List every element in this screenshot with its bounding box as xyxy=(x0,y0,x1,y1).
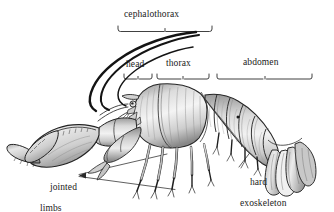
label-jointed-limbs-line-2: limbs xyxy=(40,203,77,212)
label-jointed-limbs-line-1: jointed xyxy=(50,182,77,192)
walking-legs xyxy=(133,144,214,199)
bracket-abdomen xyxy=(217,74,312,79)
shell-marking xyxy=(237,116,240,119)
label-cephalothorax: cephalothorax xyxy=(124,9,179,20)
label-hard-exoskeleton-line-1: hard xyxy=(250,177,267,187)
walking-leg-4 xyxy=(189,147,195,193)
abdomen xyxy=(205,94,279,167)
label-thorax: thorax xyxy=(166,58,191,69)
walking-leg-1 xyxy=(133,145,150,199)
walking-leg-5 xyxy=(204,144,214,186)
bracket-cephalothorax xyxy=(118,26,212,32)
crustacean-anatomy-figure: cephalothorax head thorax abdomen jointe… xyxy=(0,0,334,211)
bracket-thorax xyxy=(157,74,209,79)
jointed-limbs-leader-lower xyxy=(79,177,175,190)
label-hard-exoskeleton: hard exoskeleton xyxy=(240,166,286,211)
label-jointed-limbs: jointed limbs xyxy=(40,171,77,211)
walking-leg-2 xyxy=(151,147,163,199)
label-abdomen: abdomen xyxy=(243,57,279,68)
label-hard-exoskeleton-line-2: exoskeleton xyxy=(240,198,286,209)
label-head: head xyxy=(126,59,144,70)
walking-leg-3 xyxy=(168,148,177,197)
